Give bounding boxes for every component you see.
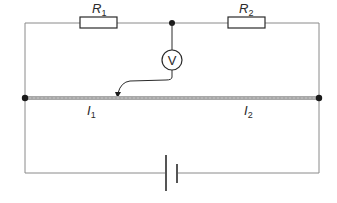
voltmeter: V — [162, 50, 182, 70]
resistor-r1: R1 — [80, 1, 117, 28]
junction-node-right — [316, 95, 322, 101]
section-label-i1: I1 — [87, 103, 96, 120]
battery-cell — [166, 155, 177, 191]
resistor-r1-body — [80, 17, 117, 28]
junction-node-left — [22, 95, 28, 101]
resistor-r2-label: R2 — [239, 1, 253, 18]
resistor-r2-body — [228, 17, 265, 28]
voltmeter-label: V — [168, 53, 177, 68]
circuit-diagram: R1 R2 V I1 I2 — [0, 0, 337, 203]
resistor-r2: R2 — [228, 1, 265, 28]
sliding-contact-lead[interactable] — [118, 70, 172, 93]
resistor-r1-label: R1 — [92, 1, 106, 18]
section-label-i2: I2 — [244, 103, 253, 120]
